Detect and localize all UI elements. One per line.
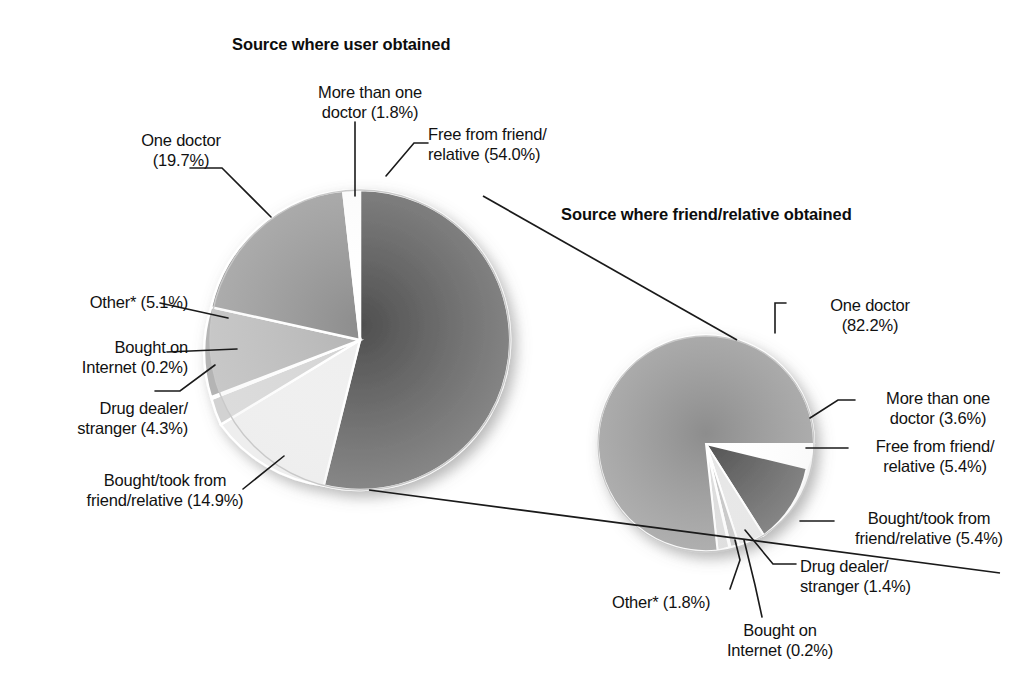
pie-left-label-free-from-friend-relative: Free from friend/ relative (54.0%) [428,124,604,164]
pie-right-label-bought-took-from-friend-relative: Bought/took from friend/relative (5.4%) [838,508,1020,548]
pie-left-label-other: Other* (5.1%) [40,292,188,312]
chart-title-left: Source where user obtained [232,35,450,54]
pie-left [204,190,510,490]
pie-right-label-bought-on-internet: Bought on Internet (0.2%) [704,620,856,660]
pie-left-label-more-than-one-doctor: More than one doctor (1.8%) [282,82,458,122]
pie-right-label-other: Other* (1.8%) [612,592,746,612]
pie-right [598,335,814,552]
pie-left-label-drug-dealer-stranger: Drug dealer/ stranger (4.3%) [28,398,188,438]
pie-left-label-one-doctor: One doctor (19.7%) [104,130,258,170]
pie-left-label-bought-on-internet: Bought on Internet (0.2%) [30,337,188,377]
chart-title-right: Source where friend/relative obtained [561,205,852,224]
pie-right-label-more-than-one-doctor: More than one doctor (3.6%) [860,388,1016,428]
pie-left-label-bought-took-from-friend-relative: Bought/took from friend/relative (14.9%) [52,470,278,510]
pie-left-paper-tint [210,190,510,490]
pie-right-label-one-doctor: One doctor (82.2%) [788,295,952,335]
pie-right-label-drug-dealer-stranger: Drug dealer/ stranger (1.4%) [800,556,940,596]
pie-right-label-free-from-friend-relative: Free from friend/ relative (5.4%) [852,436,1018,476]
pie-right-paper-tint [598,336,814,552]
figure-canvas: Source where user obtained Source where … [0,0,1021,684]
